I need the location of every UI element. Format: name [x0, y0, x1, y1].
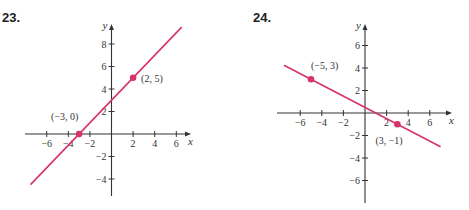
y-tick-label: 8: [102, 39, 107, 50]
point-label: (3, −1): [375, 135, 402, 147]
x-tick-label: −2: [85, 138, 96, 149]
x-tick-label: 6: [427, 117, 432, 128]
x-tick-label: −6: [295, 117, 306, 128]
y-arrow-icon: [363, 24, 368, 30]
x-tick-label: −2: [338, 117, 349, 128]
x-tick-label: −4: [63, 138, 74, 149]
data-point: [394, 121, 401, 128]
chart-1: xy−6−4−2246−4−22468(−3, 0)(2, 5): [25, 19, 193, 196]
x-tick-label: −6: [41, 138, 52, 149]
y-tick-label: 4: [102, 84, 107, 95]
point-label: (2, 5): [141, 73, 163, 85]
y-tick-label: −4: [349, 153, 360, 164]
data-point: [308, 76, 315, 83]
y-tick-label: 4: [355, 63, 360, 74]
y-tick-label: 6: [102, 61, 107, 72]
y-tick-label: −2: [349, 130, 360, 141]
y-tick-label: −6: [349, 175, 360, 186]
y-arrow-icon: [109, 24, 114, 30]
x-tick-label: 4: [406, 117, 411, 128]
x-tick-label: 6: [174, 138, 179, 149]
data-point: [76, 131, 83, 138]
chart-2: xy−6−4−2246−6−4−2246(−5, 3)(3, −1): [277, 19, 454, 203]
plotted-line: [284, 65, 441, 147]
x-axis-label: x: [448, 114, 454, 126]
data-point: [130, 74, 137, 81]
y-tick-label: 2: [355, 85, 360, 96]
x-tick-label: −4: [316, 117, 327, 128]
x-axis-label: x: [187, 135, 193, 147]
charts: xy−6−4−2246−4−22468(−3, 0)(2, 5)xy−6−4−2…: [0, 0, 469, 210]
y-axis-label: y: [355, 19, 361, 31]
x-tick-label: 2: [131, 138, 136, 149]
x-tick-label: 4: [152, 138, 157, 149]
y-tick-label: 6: [355, 40, 360, 51]
y-tick-label: −4: [96, 174, 107, 185]
point-label: (−3, 0): [51, 111, 78, 123]
point-label: (−5, 3): [311, 60, 338, 72]
y-axis-label: y: [102, 19, 108, 31]
y-tick-label: −2: [96, 151, 107, 162]
